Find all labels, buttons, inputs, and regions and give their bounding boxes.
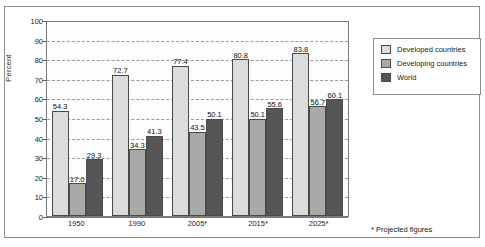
bar-group: 77.443.550.1 [167,22,227,216]
bar-value-label: 83.8 [294,46,309,54]
bar-developing-2015: 50.1 [249,119,266,216]
bar-developing-1990: 34.3 [129,149,146,216]
bar-value-label: 54.3 [53,103,68,111]
y-axis-tick-labels: 0102030405060708090100 [17,21,43,217]
bar-value-label: 56.7 [311,99,326,107]
bar-group: 80.850.155.6 [228,22,288,216]
chart-legend: Developed countriesDeveloping countriesW… [373,38,481,95]
legend-swatch-developing [381,59,391,68]
chart-outer-frame: Percent 0102030405060708090100 54.317.02… [4,6,480,238]
gridline-0 [47,217,348,218]
bar-slot: 29.3 [86,22,103,216]
bar-value-label: 29.3 [87,152,102,160]
bar-value-label: 60.1 [328,92,343,100]
legend-swatch-world [381,73,391,82]
x-tick-2005: 2005* [167,219,228,233]
bar-slot: 80.8 [232,22,249,216]
bar-slot: 72.7 [112,22,129,216]
legend-item-world: World [381,73,480,82]
bar-value-label: 34.3 [130,142,145,150]
x-tick-2025: 2025* [288,219,349,233]
bar-developed-2025: 83.8 [292,53,309,216]
bar-slot: 34.3 [129,22,146,216]
bar-value-label: 80.8 [233,52,248,60]
bar-developing-2005: 43.5 [189,132,206,216]
bar-developed-2005: 77.4 [172,66,189,216]
bar-value-label: 72.7 [113,67,128,75]
legend-item-developing: Developing countries [381,59,480,68]
legend-label: Developed countries [397,45,465,54]
bar-world-2015: 55.6 [266,108,283,216]
bar-world-1950: 29.3 [86,159,103,216]
bar-value-label: 55.6 [267,101,282,109]
bar-value-label: 17.0 [70,176,85,184]
bar-world-2005: 50.1 [206,119,223,216]
legend-label: Developing countries [397,59,467,68]
bar-slot: 43.5 [189,22,206,216]
bar-slot: 41.3 [146,22,163,216]
bar-value-label: 50.1 [207,111,222,119]
bar-world-1990: 41.3 [146,136,163,216]
footnote-text: * Projected figures [371,225,432,234]
bar-group: 54.317.029.3 [47,22,107,216]
bar-slot: 50.1 [206,22,223,216]
bar-slot: 56.7 [309,22,326,216]
bar-value-label: 43.5 [190,124,205,132]
bar-developed-2015: 80.8 [232,59,249,216]
legend-label: World [397,73,416,82]
bar-group: 72.734.341.3 [107,22,167,216]
bar-slot: 77.4 [172,22,189,216]
bar-value-label: 41.3 [147,128,162,136]
x-tick-1990: 1990 [107,219,168,233]
y-axis-title: Percent [4,33,13,103]
bar-groups: 54.317.029.372.734.341.377.443.550.180.8… [47,22,348,216]
x-tick-1950: 1950 [46,219,107,233]
x-tick-2015: 2015* [228,219,289,233]
legend-swatch-developed [381,45,391,54]
plot-area: 54.317.029.372.734.341.377.443.550.180.8… [46,21,349,217]
x-axis-tick-labels: 195019902005*2015*2025* [46,219,349,233]
bar-slot: 54.3 [52,22,69,216]
bar-slot: 83.8 [292,22,309,216]
bar-developing-1950: 17.0 [69,183,86,216]
bar-developed-1990: 72.7 [112,75,129,216]
legend-item-developed: Developed countries [381,45,480,54]
bar-slot: 60.1 [326,22,343,216]
bar-slot: 17.0 [69,22,86,216]
bar-slot: 50.1 [249,22,266,216]
bar-group: 83.856.760.1 [288,22,348,216]
bar-developed-1950: 54.3 [52,111,69,216]
bar-world-2025: 60.1 [326,99,343,216]
bar-value-label: 77.4 [173,58,188,66]
bar-slot: 55.6 [266,22,283,216]
bar-developing-2025: 56.7 [309,106,326,216]
bar-value-label: 50.1 [250,111,265,119]
